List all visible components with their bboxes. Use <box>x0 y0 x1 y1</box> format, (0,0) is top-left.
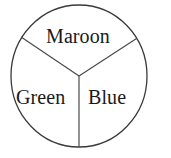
sector-label-green: Green <box>16 87 65 107</box>
pie-chart-graphic <box>0 0 171 158</box>
sector-label-blue: Blue <box>88 87 126 107</box>
sector-label-maroon: Maroon <box>46 26 110 46</box>
pie-diagram: Maroon Green Blue <box>0 0 171 158</box>
